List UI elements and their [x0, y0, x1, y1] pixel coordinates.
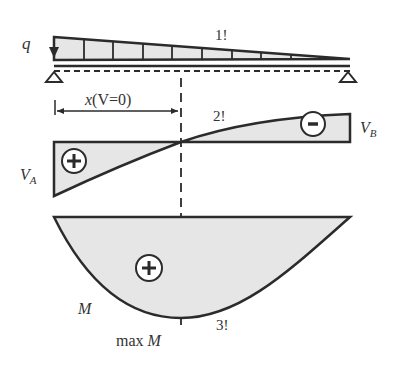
max-moment-label: max M — [116, 332, 163, 349]
load-marker: 1! — [215, 27, 228, 43]
moment-label: M — [77, 300, 93, 317]
moment-marker: 3! — [216, 317, 229, 333]
right-support-icon — [340, 72, 356, 82]
beam — [54, 66, 350, 71]
shear-diagram — [54, 112, 350, 196]
dimension-label: x(V=0) — [84, 91, 131, 109]
moment-diagram — [54, 217, 350, 318]
shear-right-label: VB — [360, 119, 377, 139]
shear-marker: 2! — [213, 108, 226, 124]
load-label: q — [22, 34, 31, 53]
distributed-load — [49, 37, 350, 60]
shear-left-label: VA — [20, 166, 37, 186]
beam-diagram: q 1! x(V=0) 2! VA VB M 3 — [0, 0, 405, 365]
left-support-icon — [46, 72, 62, 82]
